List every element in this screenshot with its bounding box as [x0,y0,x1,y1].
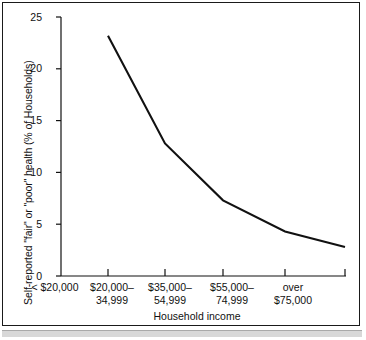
footer-strip [2,331,362,337]
plot-svg [47,14,347,280]
y-tick-label-5: 5 [20,218,42,230]
y-axis-ticks [56,17,61,276]
y-axis-tick-labels: 25 20 15 10 5 0 [16,14,42,280]
plot-area [47,14,347,280]
x-axis-title: Household income [47,310,347,322]
y-tick-label-25: 25 [20,11,42,23]
y-tick-label-15: 15 [20,114,42,126]
x-axis-ticks [108,269,345,276]
y-tick-label-20: 20 [20,62,42,74]
y-tick-label-10: 10 [20,166,42,178]
x-axis-tick-labels: < $20,000 $20,000– 34,999 $35,000– 54,99… [47,281,347,309]
data-series-line [108,36,345,247]
chart-figure: Self-reported "fair" or "poor" health (%… [0,0,366,340]
x-tick-label-4: over $75,000 [256,281,330,306]
